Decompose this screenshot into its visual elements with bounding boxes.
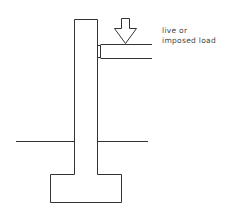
load-arrow-icon (115, 19, 137, 44)
structural-drawing (0, 0, 239, 214)
load-label-line1: live or (162, 26, 187, 35)
load-label-line2: imposed load (162, 36, 216, 45)
diagram-canvas: live or imposed load (0, 0, 239, 214)
bearing-plate (98, 46, 101, 58)
wall-and-footing-outline (51, 20, 122, 203)
